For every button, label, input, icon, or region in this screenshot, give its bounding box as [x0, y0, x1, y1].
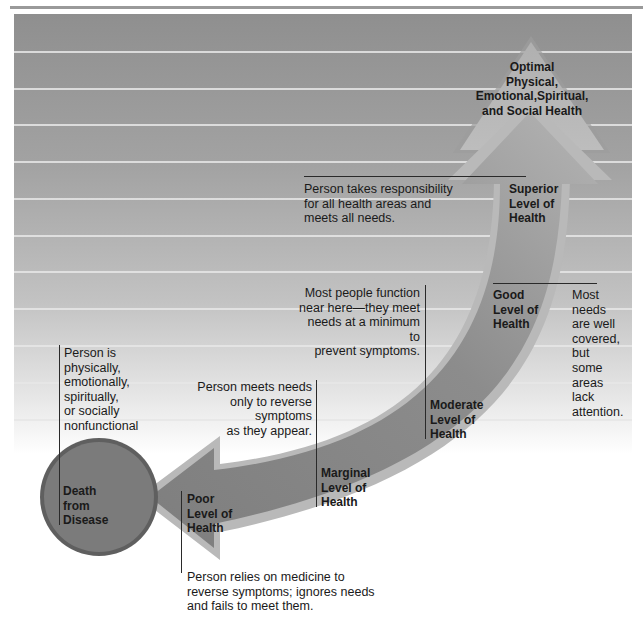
good-description: Most needs are well covered, but some ar… — [572, 288, 638, 419]
superior-level-label: Superior Level of Health — [509, 182, 579, 226]
good-level-label: Good Level of Health — [493, 288, 563, 332]
poor-level-label: Poor Level of Health — [187, 492, 257, 536]
marginal-level-label: Marginal Level of Health — [321, 466, 391, 510]
moderate-level-label: Moderate Level of Health — [430, 398, 500, 442]
marginal-leader-line — [316, 380, 317, 507]
moderate-leader-line — [425, 285, 426, 439]
superior-leader-line — [304, 176, 526, 177]
death-description: Person is physically, emotionally, spiri… — [64, 346, 174, 434]
superior-description: Person takes responsibility for all heal… — [304, 182, 464, 226]
death-from-disease-label: Death from Disease — [63, 484, 133, 528]
poor-leader-line — [181, 491, 182, 573]
apex-label: Optimal Physical, Emotional,Spiritual, a… — [466, 60, 598, 118]
death-leader-line — [59, 345, 60, 525]
poor-description: Person relies on medicine to reverse sym… — [187, 570, 387, 614]
moderate-description: Most people function near here—they meet… — [296, 286, 420, 359]
good-leader-line — [493, 283, 597, 284]
marginal-description: Person meets needs only to reverse sympt… — [170, 380, 312, 438]
